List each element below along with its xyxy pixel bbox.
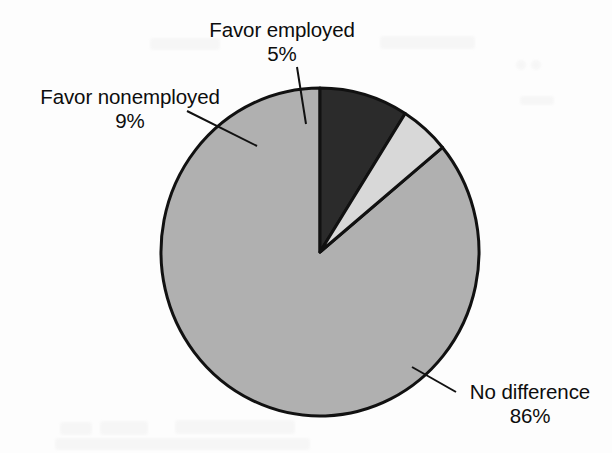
pie-label-no-difference: No difference 86% — [457, 380, 603, 428]
pie-label-favor-employed-name: Favor employed — [196, 18, 368, 42]
pie-label-favor-nonemployed-value: 9% — [22, 109, 238, 133]
pie-label-favor-employed-value: 5% — [196, 42, 368, 66]
pie-label-favor-nonemployed-name: Favor nonemployed — [22, 85, 238, 109]
pie-label-favor-employed: Favor employed 5% — [196, 18, 368, 66]
pie-chart-figure: Favor employed 5% Favor nonemployed 9% N… — [0, 0, 612, 453]
pie-label-favor-nonemployed: Favor nonemployed 9% — [22, 85, 238, 133]
pie-label-no-difference-name: No difference — [457, 380, 603, 404]
pie-label-no-difference-value: 86% — [457, 404, 603, 428]
